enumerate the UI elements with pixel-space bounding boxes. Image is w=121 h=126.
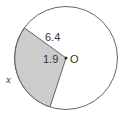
angle-label: 1.9 <box>43 53 58 65</box>
diagram-canvas: 6.4 1.9 O x <box>0 0 121 126</box>
center-point <box>64 56 67 59</box>
center-label: O <box>70 53 79 65</box>
circle-sector-diagram: 6.4 1.9 O x <box>0 0 121 126</box>
arc-label: x <box>5 73 11 85</box>
radius-label: 6.4 <box>45 31 60 43</box>
